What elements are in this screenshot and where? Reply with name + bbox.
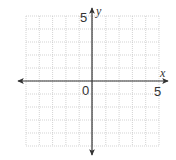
- y-max-label: 5: [80, 10, 87, 25]
- x-axis-label: x: [159, 66, 166, 80]
- origin-label: 0: [82, 83, 89, 98]
- y-axis-label: y: [95, 4, 102, 18]
- coordinate-plane: 5 y x 5 0: [0, 0, 176, 160]
- x-max-label: 5: [154, 84, 161, 99]
